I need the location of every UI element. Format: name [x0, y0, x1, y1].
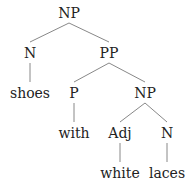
node-n: N — [24, 46, 36, 60]
node-np-root: NP — [58, 6, 80, 20]
edge-np-pp — [69, 23, 109, 42]
node-np-inner: NP — [134, 86, 156, 100]
edge-pp-p — [74, 63, 109, 82]
node-n-inner: N — [161, 126, 173, 140]
leaf-shoes: shoes — [10, 86, 50, 100]
edge-np-adj — [120, 103, 145, 122]
node-p: P — [69, 86, 78, 100]
node-pp: PP — [100, 46, 119, 60]
node-adj: Adj — [108, 126, 131, 140]
edge-np-n — [30, 23, 69, 42]
edge-pp-np — [109, 63, 145, 82]
leaf-with: with — [58, 126, 89, 140]
edge-np-n2 — [145, 103, 167, 122]
leaf-white: white — [100, 166, 139, 180]
leaf-laces: laces — [149, 166, 185, 180]
